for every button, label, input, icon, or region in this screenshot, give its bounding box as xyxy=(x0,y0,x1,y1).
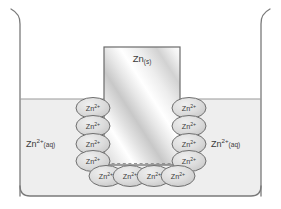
ion-label-base: Zn xyxy=(182,122,190,131)
ion-label-charge: 2+ xyxy=(94,103,100,109)
ion-bubble[interactable]: Zn2+ xyxy=(161,166,195,187)
ion-label-charge: 2+ xyxy=(190,121,196,127)
ion-label-base: Zn xyxy=(147,172,155,181)
electrode-label-main: Zn xyxy=(133,53,144,64)
ion-label-charge: 2+ xyxy=(179,171,185,177)
ion-label-charge: 2+ xyxy=(190,103,196,109)
beaker-right-wall xyxy=(261,9,270,196)
beaker-left-wall xyxy=(11,9,20,196)
ion-label-charge: 2+ xyxy=(155,171,161,177)
ion-label-charge: 2+ xyxy=(131,171,137,177)
solution-label-right-base: Zn xyxy=(211,139,222,149)
ion-label-charge: 2+ xyxy=(94,156,100,162)
ion-label-base: Zn xyxy=(99,172,107,181)
zinc-electrode-bar[interactable] xyxy=(104,47,180,165)
ion-label-base: Zn xyxy=(182,140,190,149)
ion-label-base: Zn xyxy=(182,104,190,113)
ion-label-base: Zn xyxy=(86,140,94,149)
ion-label-base: Zn xyxy=(171,172,179,181)
solution-label-right-state: (aq) xyxy=(229,141,241,149)
solution-label-left-state: (aq) xyxy=(44,141,56,149)
ion-label-charge: 2+ xyxy=(94,139,100,145)
solution-label-left-base: Zn xyxy=(26,139,37,149)
ion-label-charge: 2+ xyxy=(190,139,196,145)
figure-zinc-half-cell: Zn(s) Zn2+ Zn2+ Zn2+ Zn2+ xyxy=(0,0,281,209)
ion-label-charge: 2+ xyxy=(190,156,196,162)
electrode-label-sub: (s) xyxy=(144,58,151,66)
ion-label-base: Zn xyxy=(86,104,94,113)
ion-label-base: Zn xyxy=(123,172,131,181)
ion-label-charge: 2+ xyxy=(94,121,100,127)
ion-label-base: Zn xyxy=(182,157,190,166)
zinc-electrode[interactable]: Zn(s) xyxy=(104,47,180,165)
ion-label-base: Zn xyxy=(86,157,94,166)
ion-label-charge: 2+ xyxy=(107,171,113,177)
ion-label-base: Zn xyxy=(86,122,94,131)
diagram-canvas: Zn(s) Zn2+ Zn2+ Zn2+ Zn2+ xyxy=(0,0,281,209)
ion-group-bottom: Zn2+ Zn2+ Zn2+ Zn2+ xyxy=(89,166,195,187)
